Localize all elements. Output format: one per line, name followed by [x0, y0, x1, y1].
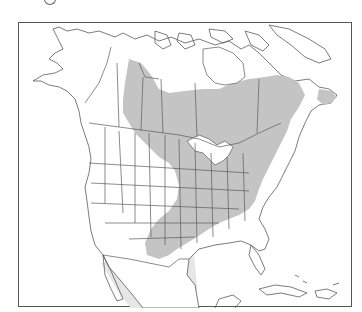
- map-frame: [18, 22, 352, 307]
- north-america-map: [19, 23, 353, 308]
- cuba: [259, 285, 307, 297]
- hispaniola: [315, 289, 337, 299]
- yucatan-coast: [215, 295, 241, 308]
- bahamas: [295, 275, 339, 285]
- greenland-coast: [269, 25, 331, 63]
- cropped-caption-fragment: [44, 0, 56, 5]
